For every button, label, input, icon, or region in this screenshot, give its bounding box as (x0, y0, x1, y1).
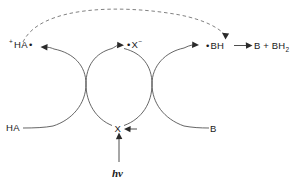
label-photon-group: hν (112, 167, 123, 179)
label-x-anion-radical-dot: • (127, 39, 131, 50)
x-inbound-right-arrow-group (124, 126, 137, 132)
label-ha-cation-radical-dot: • (29, 39, 33, 50)
label-x-anion-charge: − (138, 38, 142, 45)
label-reactant-ha-group: HA (6, 122, 20, 133)
label-product-b: B (254, 40, 261, 51)
center-cycle-arc-left-half (86, 49, 112, 126)
label-product-plus: + (263, 40, 269, 51)
ha-feed-line (23, 126, 53, 128)
label-bh-radical: •BH (206, 40, 224, 51)
feedback-dashed-arc (23, 9, 225, 42)
right-arc-arrow-head-icon (192, 42, 199, 49)
right-cycle-arc (152, 48, 184, 126)
label-reactant-b: B (210, 123, 217, 134)
label-catalyst-x-group: X (115, 123, 122, 134)
x-inbound-right-arrow-head-icon (124, 126, 131, 132)
label-ha-radical-cation-group: +HA• (9, 38, 33, 50)
feedback-arrow-head-icon (222, 33, 229, 40)
center-cycle-arc-group (86, 42, 152, 126)
label-reactant-b-group: B (210, 123, 217, 134)
reaction-scheme-diagram: +HA• •X− •BH B+BH2 HA X (0, 0, 291, 190)
label-bh-radical-group: •BH (206, 40, 224, 51)
label-bh-text: BH (210, 40, 224, 51)
label-x-radical-anion-group: •X− (127, 38, 143, 50)
label-reactant-ha: HA (6, 122, 20, 133)
label-product-bh2-subscript: 2 (286, 46, 290, 53)
center-arc-arrow-tail (112, 45, 118, 48)
center-arc-arrow-head-icon (117, 42, 124, 49)
left-arc-arrow-tail (47, 47, 54, 49)
b-feed-line (184, 126, 209, 128)
center-cycle-arc-right-half (124, 49, 152, 126)
feedback-dashed-arc-group (23, 9, 229, 42)
label-products: B+BH2 (254, 40, 290, 53)
label-bh-radical-dot: • (206, 40, 210, 51)
photon-arrow-group (116, 133, 122, 163)
bh-to-product-arrow-group (234, 42, 253, 48)
bh-to-product-arrow-head-icon (246, 42, 253, 48)
left-arc-arrow-head-icon (41, 44, 48, 51)
label-product-bh2: BH (272, 40, 286, 51)
right-cycle-arc-group (152, 42, 209, 129)
left-cycle-arc-group (23, 44, 86, 128)
label-catalyst-x: X (115, 123, 122, 134)
label-products-group: B+BH2 (254, 40, 290, 53)
label-ha-radical-cation: +HA• (9, 38, 33, 50)
label-x-radical-anion: •X− (127, 38, 143, 50)
left-cycle-arc (53, 49, 86, 126)
label-x-anion-text: X (131, 39, 138, 50)
right-arc-arrow-tail (184, 45, 193, 48)
label-ha-cation-charge: + (9, 38, 13, 45)
label-photon: hν (112, 167, 123, 179)
label-ha-cation-text: HA (14, 39, 28, 50)
scheme-canvas: +HA• •X− •BH B+BH2 HA X (0, 0, 291, 190)
